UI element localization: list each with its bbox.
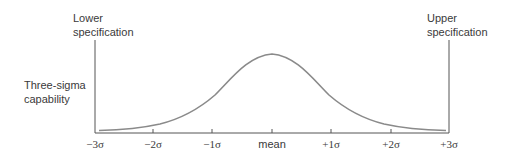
bell-curve [99, 54, 446, 131]
capability-line2: capability [24, 92, 86, 106]
tick-label-minus-2-sigma: −2σ [144, 137, 162, 151]
axis-ticks [153, 129, 391, 133]
three-sigma-capability-label: Three-sigma capability [24, 78, 86, 106]
upper-specification-label: Upper specification [427, 11, 488, 39]
capability-line1: Three-sigma [24, 78, 86, 92]
tick-label-minus-1-sigma: −1σ [203, 137, 221, 151]
three-sigma-capability-diagram: Lower specification Upper specification … [0, 0, 512, 160]
tick-label-plus-1-sigma: +1σ [322, 137, 340, 151]
lower-specification-label: Lower specification [73, 11, 134, 39]
upper-spec-line2: specification [427, 25, 488, 39]
tick-label-plus-2-sigma: +2σ [382, 137, 400, 151]
tick-label-minus-3-sigma: −3σ [86, 137, 104, 151]
tick-label-mean: mean [258, 137, 286, 151]
upper-spec-line1: Upper [427, 11, 488, 25]
lower-spec-line2: specification [73, 25, 134, 39]
lower-spec-line1: Lower [73, 11, 134, 25]
tick-label-plus-3-sigma: +3σ [440, 137, 458, 151]
